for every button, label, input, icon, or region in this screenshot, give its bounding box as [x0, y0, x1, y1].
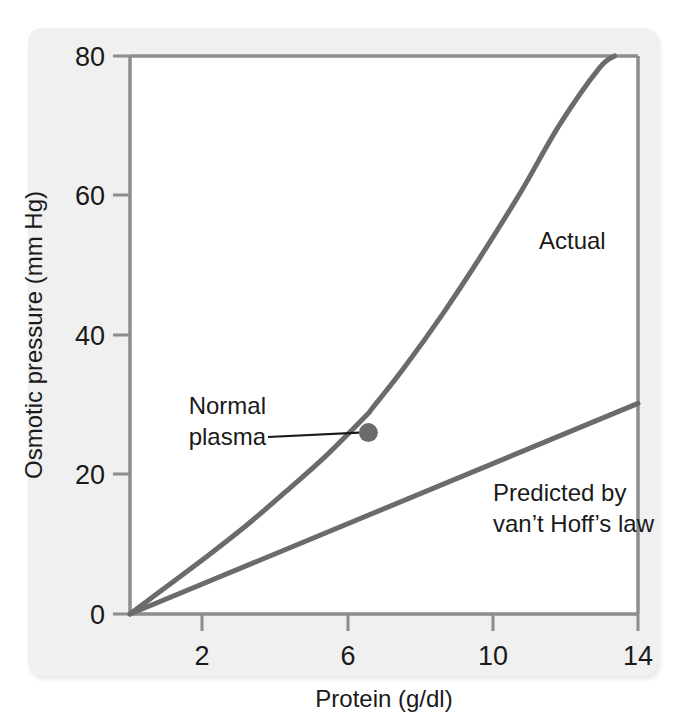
osmotic-pressure-chart: 80 60 40 20 0 2 6 10 14 Protein (g/dl) O… — [0, 0, 683, 725]
figure-root: 80 60 40 20 0 2 6 10 14 Protein (g/dl) O… — [0, 0, 683, 725]
vant-hoff-label-line2: van’t Hoff’s law — [493, 510, 655, 537]
x-tick-label-14: 14 — [623, 641, 653, 671]
y-tick-label-80: 80 — [75, 42, 105, 72]
actual-series-label: Actual — [539, 227, 606, 254]
y-tick-label-0: 0 — [90, 600, 105, 630]
y-tick-label-40: 40 — [75, 321, 105, 351]
y-axis-title: Osmotic pressure (mm Hg) — [20, 191, 47, 479]
x-tick-label-2: 2 — [194, 641, 209, 671]
normal-plasma-marker-dot — [359, 423, 378, 442]
x-tick-label-6: 6 — [340, 641, 355, 671]
normal-plasma-label-line2: plasma — [189, 423, 267, 450]
vant-hoff-label-line1: Predicted by — [493, 479, 626, 506]
y-tick-label-20: 20 — [75, 460, 105, 490]
normal-plasma-label-line1: Normal — [189, 392, 266, 419]
x-axis-title: Protein (g/dl) — [315, 685, 452, 712]
x-tick-label-10: 10 — [478, 641, 508, 671]
y-tick-label-60: 60 — [75, 181, 105, 211]
